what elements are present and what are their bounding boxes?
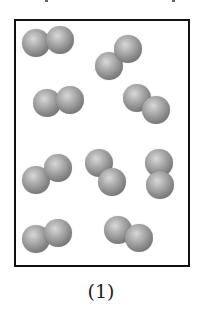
atom-sphere (114, 35, 142, 63)
atom-sphere (142, 96, 170, 124)
top-mark (172, 0, 175, 2)
figure-caption: (1) (0, 280, 202, 302)
top-mark (45, 0, 48, 2)
cropped-top-marks (0, 0, 202, 4)
atom-sphere (46, 26, 74, 54)
atom-sphere (146, 171, 174, 199)
atom-sphere (44, 154, 72, 182)
atom-sphere (56, 86, 84, 114)
atom-sphere (98, 168, 126, 196)
atom-sphere (44, 219, 72, 247)
atom-sphere (125, 224, 153, 252)
